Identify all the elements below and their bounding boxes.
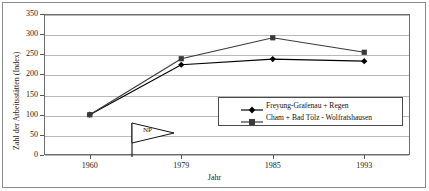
legend-entry-1: Cham + Bad Tölz - Wolfratshausen <box>241 112 372 124</box>
data-series-layer <box>44 14 410 155</box>
np-flag-annotation <box>130 120 178 158</box>
x-tick-mark <box>364 155 365 159</box>
y-tick-label: 0 <box>8 151 38 159</box>
x-tick-mark <box>90 155 91 159</box>
x-tick-label: 1979 <box>161 161 201 170</box>
data-point-diamond <box>178 62 184 68</box>
chart-figure: Zahl der Arbeitsstätten (Index) 05010015… <box>0 0 429 191</box>
y-tick-label: 300 <box>8 30 38 38</box>
y-tick-label: 250 <box>8 50 38 58</box>
y-tick-mark <box>40 155 44 156</box>
legend-label-1: Cham + Bad Tölz - Wolfratshausen <box>266 113 372 123</box>
x-tick-label: 1960 <box>70 161 110 170</box>
x-tick-label: 1993 <box>344 161 384 170</box>
data-point-square <box>270 35 275 40</box>
y-tick-label: 200 <box>8 70 38 78</box>
legend: Freyung-Grafenau + Regen Cham + Bad Tölz… <box>218 97 403 126</box>
data-point-diamond <box>270 56 276 62</box>
y-tick-label: 100 <box>8 111 38 119</box>
data-point-square <box>87 112 92 117</box>
gridline <box>45 155 409 156</box>
y-tick-label: 350 <box>8 10 38 18</box>
legend-entry-0: Freyung-Grafenau + Regen <box>241 100 349 112</box>
diamond-marker-icon <box>241 101 263 111</box>
y-tick-label: 150 <box>8 91 38 99</box>
data-point-square <box>362 50 367 55</box>
data-point-diamond <box>361 58 367 64</box>
x-tick-label: 1985 <box>253 161 293 170</box>
data-point-square <box>179 56 184 61</box>
x-tick-mark <box>273 155 274 159</box>
legend-label-0: Freyung-Grafenau + Regen <box>266 101 349 111</box>
y-tick-label: 50 <box>8 131 38 139</box>
np-flag-label: NP <box>143 126 152 134</box>
x-tick-mark <box>181 155 182 159</box>
square-marker-icon <box>241 113 263 123</box>
x-axis-title: Jahr <box>0 173 429 182</box>
